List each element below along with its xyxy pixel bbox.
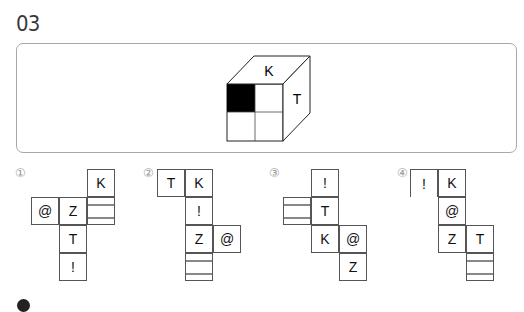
net-face-exclaim: ! [311, 169, 339, 197]
net-face-z: Z [339, 253, 367, 281]
cube-right-letter: T [293, 91, 302, 107]
net-face-z: Z [438, 225, 466, 253]
net-face-at: @ [31, 197, 59, 225]
net-face-t: T [311, 197, 339, 225]
net-face-k: K [185, 169, 213, 197]
net-face-z: Z [59, 197, 87, 225]
cube-figure: K T [0, 0, 524, 160]
option-1-label[interactable]: ① [15, 166, 26, 180]
net-face-pattern [87, 197, 115, 225]
net-face-pattern [466, 253, 494, 281]
net-face-t: T [157, 169, 185, 197]
cube-top-letter: K [264, 63, 274, 79]
net-face-at: @ [438, 197, 466, 225]
net-face-t: T [466, 225, 494, 253]
option-4-label[interactable]: ④ [397, 166, 408, 180]
net-face-z: Z [185, 225, 213, 253]
net-face-k: K [87, 169, 115, 197]
net-face-t: T [59, 225, 87, 253]
net-face-pattern [283, 197, 311, 225]
net-face-at: @ [213, 225, 241, 253]
option-3-label[interactable]: ③ [269, 166, 280, 180]
net-face-exclaim: ! [410, 169, 438, 197]
net-face-at: @ [339, 225, 367, 253]
option-2-label[interactable]: ② [143, 166, 154, 180]
net-face-k: K [438, 169, 466, 197]
net-face-pattern [185, 253, 213, 281]
net-face-exclaim: ! [185, 197, 213, 225]
net-face-k: K [311, 225, 339, 253]
net-face-exclaim: ! [59, 253, 87, 281]
answer-marker-icon [17, 299, 30, 312]
